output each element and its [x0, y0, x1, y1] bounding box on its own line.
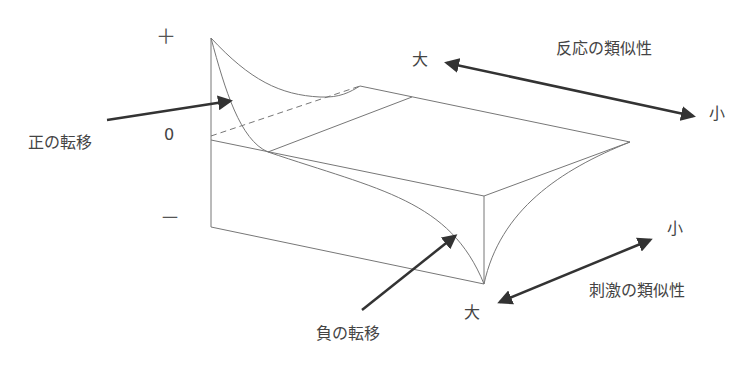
box-frame: [211, 38, 630, 284]
axis-zero-label: 0: [164, 127, 174, 143]
dashed-zero-line: [211, 86, 360, 136]
response-similarity-arrow: [447, 63, 693, 116]
stimulus-similarity-label: 刺激の類似性: [589, 283, 685, 299]
response-similarity-label: 反応の類似性: [556, 41, 652, 57]
zero-plane-back: [211, 86, 630, 152]
negative-transfer-arrow: [362, 236, 455, 310]
stimulus-high-label: 大: [464, 305, 480, 321]
response-high-label: 大: [412, 52, 428, 68]
axis-minus-symbol: －: [160, 208, 180, 228]
positive-transfer-surface: [211, 38, 360, 152]
response-low-label: 小: [709, 106, 725, 122]
annotation-arrows: [107, 63, 693, 310]
positive-transfer-label: 正の転移: [28, 135, 92, 151]
positive-transfer-arrow: [107, 101, 230, 120]
axis-plus-symbol: ＋: [156, 27, 176, 47]
negative-transfer-label: 負の転移: [316, 326, 380, 342]
stimulus-low-label: 小: [667, 221, 683, 237]
